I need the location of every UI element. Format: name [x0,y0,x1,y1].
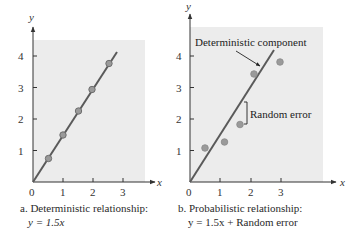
panel-b-x-tick-1: 1 [217,186,223,198]
panel-a-x-tick-0: 0 [29,186,35,198]
panel-b-y-tick-1: 1 [176,145,182,157]
panel-b-caption-title: b. Probabilistic relationship: [178,201,302,215]
data-point [202,145,209,152]
panel-b-y-label: y [185,0,191,12]
panel-b-chart: y x 1 2 3 4 0 1 2 3 [176,0,345,198]
panel-a-y-label: y [28,11,34,23]
data-point [251,71,258,78]
panel-a-y-tick-3: 3 [18,82,24,94]
panel-b-background [190,27,323,182]
panel-a-chart: y x 1 2 3 4 0 1 2 3 [18,11,162,198]
panel-b-x-tick-2: 2 [248,186,254,198]
data-point [89,86,95,92]
panel-a-caption-equation: y = 1.5x [20,215,148,229]
panel-b-y-tick-3: 3 [176,82,182,94]
data-point [106,60,112,66]
panel-b-x-tick-0: 0 [186,186,192,198]
panel-b-caption: b. Probabilistic relationship: y = 1.5x … [178,201,302,229]
panel-a-x-tick-2: 2 [90,186,96,198]
panel-a-caption-title: a. Deterministic relationship: [20,201,148,215]
data-point [60,132,66,138]
annotation-random-error: Random error [250,108,312,120]
panel-b-x-tick-3: 3 [278,186,284,198]
data-point [45,155,51,161]
data-point [75,108,81,114]
panel-a-x-tick-1: 1 [60,186,66,198]
panel-a-x-tick-3: 3 [120,186,126,198]
panel-a-y-tick-1: 1 [18,145,24,157]
panel-a-x-label: x [156,176,162,188]
panel-a-caption: a. Deterministic relationship: y = 1.5x [20,201,148,229]
panel-b-caption-equation: y = 1.5x + Random error [178,215,302,229]
panel-a-y-tick-4: 4 [18,50,24,62]
data-point [221,139,228,146]
data-point [277,59,284,66]
panel-b-y-tick-4: 4 [176,50,182,62]
data-point [237,121,244,128]
panel-b-x-label: x [339,176,345,188]
figure: y x 1 2 3 4 0 1 2 3 [0,0,362,233]
panel-a-y-tick-2: 2 [18,113,24,125]
panel-b-y-tick-2: 2 [176,113,182,125]
annotation-deterministic-component: Deterministic component [195,36,307,48]
